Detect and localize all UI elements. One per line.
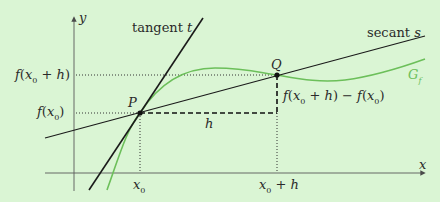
tick-label-f-x0-plus-h: f(x0 + h)	[15, 68, 70, 85]
secant-line	[45, 36, 425, 138]
difference-label: f(x0 + h) − f(x0)	[283, 89, 385, 106]
tangent-line	[89, 18, 203, 190]
tick-label-f-x0: f(x0)	[37, 105, 64, 122]
point-q-label: Q	[271, 58, 282, 71]
tangent-secant-diagram: y x tangent t secant s Gf P Q f(x0 + h) …	[0, 0, 440, 202]
secant-label: secant s	[367, 26, 421, 39]
y-axis-label: y	[79, 11, 86, 24]
point-p-label: P	[128, 96, 137, 109]
point-p	[137, 110, 142, 115]
h-label: h	[205, 117, 213, 130]
x-axis-label: x	[419, 158, 426, 171]
point-q	[274, 72, 279, 77]
tick-label-x0: x0	[133, 178, 145, 195]
curve-label: Gf	[408, 68, 421, 85]
tick-label-x0-plus-h: x0 + h	[259, 178, 299, 195]
tangent-label: tangent t	[132, 21, 192, 34]
